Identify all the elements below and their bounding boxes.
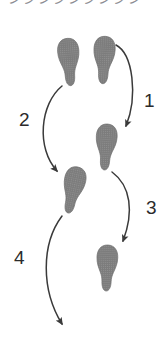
step-number-2: 2 [19,110,30,129]
footprint-5 [96,245,118,292]
arrow-3-path [112,172,129,241]
footprint-2 [92,36,116,84]
footprint-4 [58,165,89,215]
footprint-3 [94,123,118,170]
arrow-group [43,45,132,324]
arrow-4-path [46,216,62,324]
arrow-2-path [43,86,62,171]
step-number-1: 1 [144,91,155,110]
arrow-1-path [116,45,133,126]
step-number-4: 4 [14,248,25,267]
footprint-group [57,36,118,292]
footprint-1 [57,38,81,87]
step-number-3: 3 [146,198,157,217]
footstep-diagram-canvas [0,0,165,363]
footstep-diagram: ンシンシンシンシン [0,0,165,363]
